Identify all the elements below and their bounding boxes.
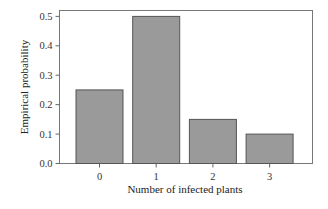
bar-2 <box>189 119 236 163</box>
bars-group <box>76 16 293 163</box>
bar-chart: 0.00.10.20.30.40.5 0123 Empirical probab… <box>0 0 328 209</box>
x-tick-label: 2 <box>210 171 215 182</box>
x-tick-label: 0 <box>97 171 102 182</box>
y-axis-label: Empirical probability <box>18 39 30 134</box>
x-ticks-group: 0123 <box>97 164 272 182</box>
y-tick-label: 0.5 <box>39 11 52 22</box>
y-ticks-group: 0.00.10.20.30.40.5 <box>39 11 59 169</box>
y-tick-label: 0.3 <box>39 70 52 81</box>
y-tick-label: 0.2 <box>39 99 52 110</box>
bar-0 <box>76 90 123 164</box>
y-tick-label: 0.1 <box>39 129 52 140</box>
bar-1 <box>133 16 180 163</box>
x-tick-label: 3 <box>267 171 272 182</box>
bar-3 <box>246 134 293 163</box>
x-axis-label: Number of infected plants <box>127 183 242 195</box>
y-tick-label: 0.0 <box>39 158 52 169</box>
x-tick-label: 1 <box>154 171 159 182</box>
y-tick-label: 0.4 <box>39 40 53 51</box>
